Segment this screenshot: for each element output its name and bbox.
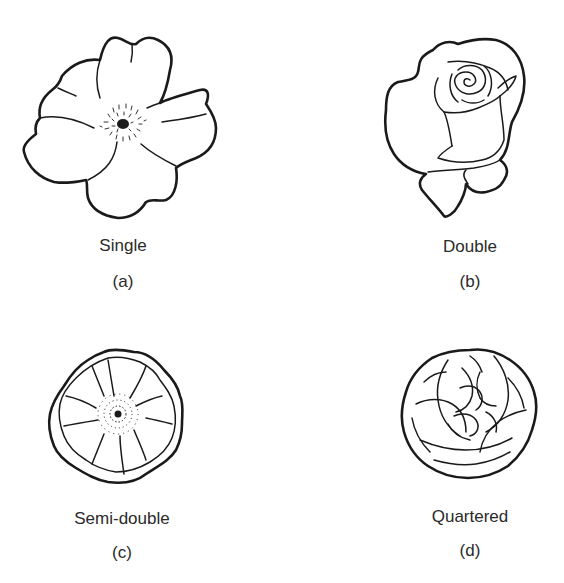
quartered-flower-drawing (402, 349, 536, 478)
stamen-cluster (98, 394, 138, 434)
double-flower-drawing (385, 39, 524, 216)
single-flower-drawing (24, 38, 216, 218)
semi-double-flower-drawing (49, 350, 182, 483)
caption-c-name: Semi-double (22, 509, 222, 529)
caption-c-letter: (c) (22, 543, 222, 563)
caption-b-letter: (b) (370, 272, 564, 292)
stamen-cluster (100, 104, 146, 141)
caption-a-letter: (a) (23, 272, 223, 292)
caption-d-letter: (d) (370, 541, 564, 561)
caption-a-name: Single (23, 236, 223, 256)
caption-b-name: Double (370, 237, 564, 257)
caption-d-name: Quartered (370, 507, 564, 527)
